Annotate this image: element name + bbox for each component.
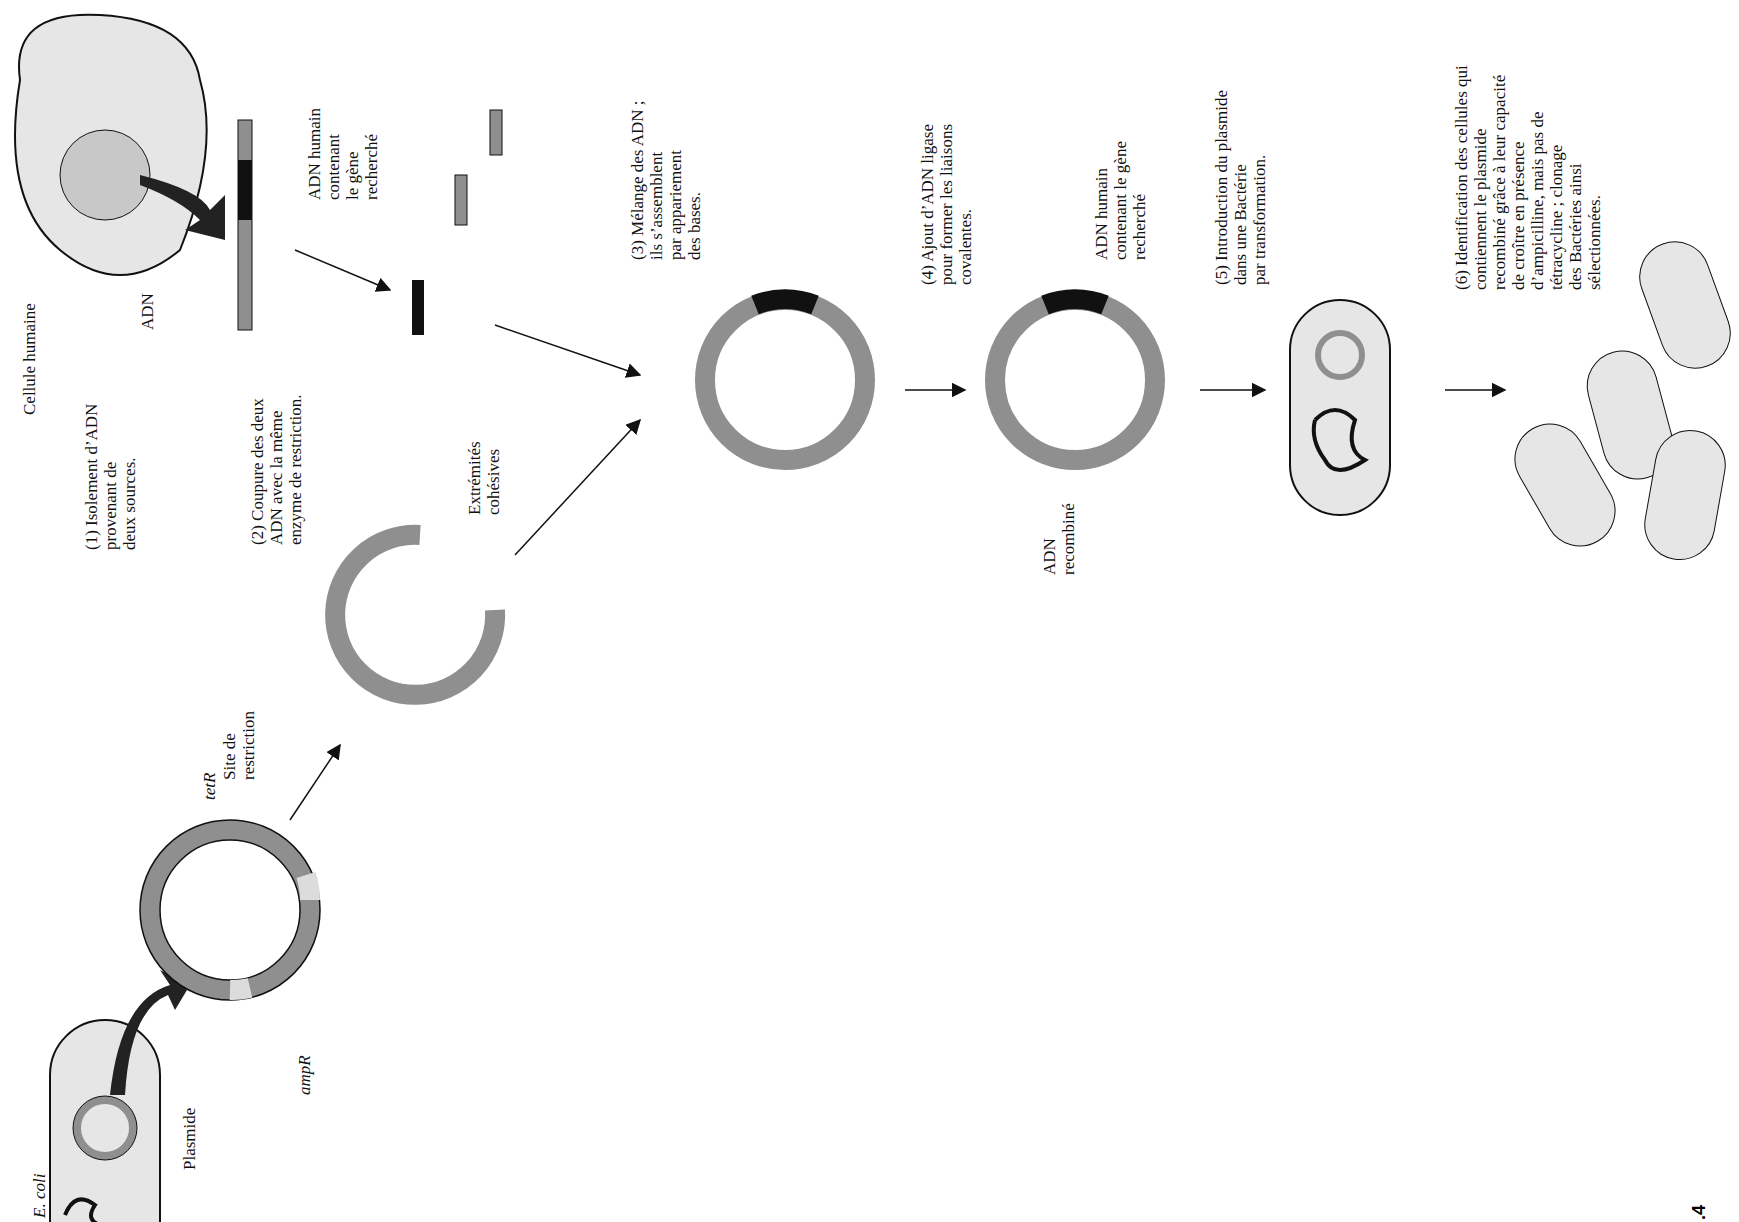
label-adn-humain: ADN humain contenant le gène recherché — [305, 108, 381, 200]
step-6: (6) Identification des cellules qui cont… — [1452, 65, 1604, 290]
step-2: (2) Coupure des deux ADN avec la même en… — [248, 394, 305, 545]
label-adn: ADN — [138, 293, 157, 330]
label-tetR: tetR — [200, 773, 219, 800]
plasmid-recombinant — [995, 299, 1155, 460]
figure-number: .4 — [1689, 1205, 1709, 1220]
human-dna — [238, 120, 252, 330]
step-1: (1) Isolement d’ADN provenant de deux so… — [82, 404, 139, 550]
step-3: (3) Mélange des ADN ; ils s’assemblent p… — [628, 100, 704, 260]
label-ecoli: E. coli — [30, 1174, 49, 1218]
plasmid-cut — [335, 535, 495, 695]
step-5: (5) Introduction du plasmide dans une Ba… — [1212, 90, 1269, 285]
label-site-restriction: Site de restriction — [220, 711, 258, 780]
nucleus — [60, 130, 150, 220]
step-4: (4) Ajout d’ADN ligase pour former les l… — [918, 124, 975, 285]
cut-insert — [412, 280, 424, 335]
label-extremites: Extrémités cohésives — [465, 441, 503, 515]
plasmid-intact — [140, 820, 320, 1000]
ecoli-cell — [50, 1020, 160, 1222]
label-adn-recombine: ADN recombiné — [1040, 503, 1078, 575]
label-cellule-humaine: Cellule humaine — [20, 303, 39, 415]
plasmid-mixed — [705, 299, 865, 460]
label-adn-humain-2: ADN humain contenant le gène recherché — [1092, 141, 1149, 260]
gene-insert — [238, 160, 252, 220]
label-ampR: ampR — [295, 1055, 314, 1095]
label-plasmide: Plasmide — [180, 1108, 199, 1170]
